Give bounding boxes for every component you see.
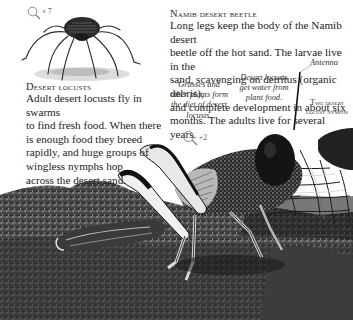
locusts-body-text: Adult desert locusts fly in swarms to fi… xyxy=(26,92,176,187)
locust-scale-label: +2 xyxy=(199,133,207,142)
beetle-scale-label: × 7 xyxy=(42,7,52,16)
magnifier-icon xyxy=(182,130,198,146)
grasses-caption: Grasses and other plants form the diet o… xyxy=(166,80,232,121)
beetle-heading: Namib desert beetle xyxy=(170,8,257,19)
locusts-heading: Desert locusts xyxy=(26,81,91,92)
book-page: × 7 Namib desert beetle Long legs keep t… xyxy=(0,0,353,320)
antenna-label: Antenna xyxy=(310,58,338,68)
nymphs-label: Two desert locust nymphs xyxy=(302,98,352,116)
locust-scale-indicator: +2 xyxy=(182,130,207,146)
magnifier-icon xyxy=(27,6,41,20)
water-caption: Desert locusts get water from plant food… xyxy=(232,73,296,104)
beetle-scale-indicator: × 7 xyxy=(27,6,52,20)
